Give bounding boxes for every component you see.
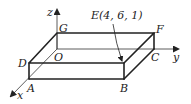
z-axis-label: z [46,6,53,19]
vertex-label-D: D [17,57,27,70]
annotation-arrow [113,24,122,61]
vertex-label-F: F [155,23,164,36]
box-diagram: z y x O G F C D A B E(4, 6, 1) [0,0,191,104]
vertex-label-B: B [119,82,128,95]
vertex-label-C: C [151,51,160,64]
point-E-text: E(4, 6, 1) [90,9,143,22]
edge-B-C [124,49,154,79]
x-axis-label: x [17,89,24,102]
origin-label: O [54,51,63,64]
vertex-label-G: G [59,22,68,35]
point-E-annotation: E(4, 6, 1) [90,9,143,22]
y-axis-label: y [172,51,180,64]
vertex-label-A: A [26,82,35,95]
